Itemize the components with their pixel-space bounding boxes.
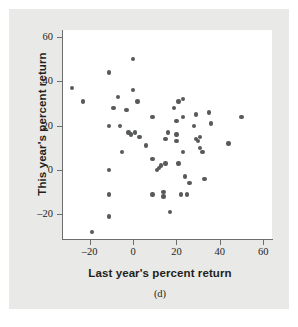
data-point [209, 121, 213, 125]
data-point [174, 132, 178, 136]
data-point [194, 112, 198, 116]
y-tick-mark [57, 37, 62, 38]
x-tick-label: –20 [75, 246, 105, 257]
data-point [207, 110, 211, 114]
x-axis-title: Last year's percent return [40, 267, 280, 279]
data-point [81, 99, 85, 103]
data-point [150, 192, 154, 196]
data-point [161, 194, 165, 198]
y-tick-mark [57, 170, 62, 171]
y-tick-mark [57, 126, 62, 127]
y-tick-mark [57, 214, 62, 215]
data-point [174, 139, 178, 143]
y-tick-mark [57, 81, 62, 82]
data-point [181, 115, 185, 119]
x-tick-label: 60 [248, 246, 278, 257]
data-point [239, 115, 243, 119]
x-tick-mark [133, 240, 134, 245]
data-point [118, 124, 122, 128]
data-point [176, 99, 180, 103]
data-point [176, 161, 180, 165]
x-tick-mark [176, 240, 177, 245]
x-tick-label: 0 [118, 246, 148, 257]
data-point [116, 95, 120, 99]
data-point [144, 143, 148, 147]
data-point [163, 137, 167, 141]
data-point [166, 130, 170, 134]
data-point [107, 214, 111, 218]
x-tick-mark [263, 240, 264, 245]
data-point [226, 141, 230, 145]
data-point [150, 157, 154, 161]
x-tick-mark [220, 240, 221, 245]
y-axis-title: This year's percent return [36, 24, 48, 224]
data-point [135, 99, 139, 103]
data-point [137, 135, 141, 139]
y-axis-line [62, 30, 63, 240]
data-point [150, 115, 154, 119]
x-tick-mark [90, 240, 91, 245]
data-point [192, 124, 196, 128]
data-point [183, 174, 187, 178]
data-point [124, 108, 128, 112]
panel-label: (d) [40, 288, 280, 299]
data-point [107, 192, 111, 196]
data-point [202, 177, 206, 181]
scatter-plot-figure: 6040200–20 –200204060 This year's percen… [0, 0, 298, 327]
data-point [185, 192, 189, 196]
data-point [133, 130, 137, 134]
data-point [163, 161, 167, 165]
x-tick-label: 40 [205, 246, 235, 257]
x-tick-label: 20 [161, 246, 191, 257]
x-axis-line [62, 239, 273, 240]
data-point [179, 192, 183, 196]
data-point [111, 106, 115, 110]
data-point [107, 70, 111, 74]
